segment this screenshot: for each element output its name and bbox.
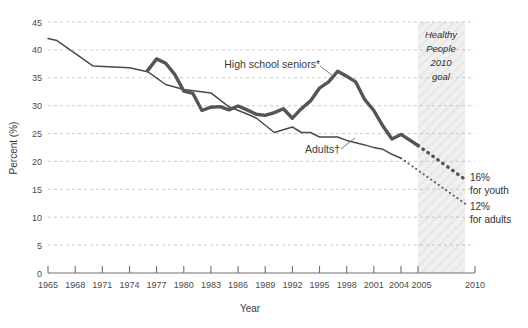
goal-line-4: goal <box>432 71 451 82</box>
target-youth-pct: 16% <box>470 172 490 183</box>
x-tick-1980: 1980 <box>174 280 194 290</box>
gridlines <box>48 22 475 245</box>
x-tick-2010: 2010 <box>465 280 485 290</box>
goal-line-3: 2010 <box>429 57 452 68</box>
y-tick-labels: 45 40 35 30 25 20 15 10 5 0 <box>32 18 42 279</box>
annotation-adults: Adults† <box>305 143 340 155</box>
target-adults-text: for adults <box>470 214 511 225</box>
goal-line-2: People <box>426 43 456 54</box>
x-tick-1992: 1992 <box>282 280 302 290</box>
y-axis-title: Percent (%) <box>8 122 19 175</box>
x-tick-1965: 1965 <box>38 280 58 290</box>
y-tick-40: 40 <box>32 45 42 55</box>
leader-line-high-school-seniors <box>320 66 333 76</box>
x-tick-1974: 1974 <box>119 280 139 290</box>
x-tick-1971: 1971 <box>92 280 112 290</box>
target-youth-label: 16% for youth <box>470 172 509 196</box>
x-tick-2004: 2004 <box>389 280 409 290</box>
x-axis-title: Year <box>240 303 261 314</box>
x-tick-1995: 1995 <box>309 280 329 290</box>
x-tick-2001: 2001 <box>364 280 384 290</box>
x-axis <box>48 266 475 273</box>
y-tick-45: 45 <box>32 18 42 28</box>
y-tick-15: 15 <box>32 185 42 195</box>
target-youth-text: for youth <box>470 185 509 196</box>
annotation-high-school-seniors: High school seniors* <box>224 58 320 70</box>
x-tick-1968: 1968 <box>65 280 85 290</box>
y-tick-35: 35 <box>32 73 42 83</box>
y-tick-20: 20 <box>32 157 42 167</box>
x-tick-1989: 1989 <box>255 280 275 290</box>
goal-line-1: Healthy <box>425 29 458 40</box>
y-tick-5: 5 <box>37 241 42 251</box>
series-line-adults <box>48 38 401 158</box>
y-tick-10: 10 <box>32 213 42 223</box>
chart-figure: 45 40 35 30 25 20 15 10 5 0 1965 1968 19… <box>0 0 528 328</box>
series-line-high-school-seniors <box>148 59 418 146</box>
target-adults-label: 12% for adults <box>470 201 511 225</box>
x-tick-labels: 1965 1968 1971 1974 1977 1980 1983 1986 … <box>38 280 485 290</box>
x-tick-1998: 1998 <box>337 280 357 290</box>
x-tick-1983: 1983 <box>201 280 221 290</box>
x-tick-1986: 1986 <box>228 280 248 290</box>
y-tick-25: 25 <box>32 129 42 139</box>
target-adults-pct: 12% <box>470 201 490 212</box>
smoking-prevalence-line-chart: 45 40 35 30 25 20 15 10 5 0 1965 1968 19… <box>0 0 528 328</box>
y-tick-30: 30 <box>32 101 42 111</box>
x-tick-1977: 1977 <box>147 280 167 290</box>
x-tick-2005: 2005 <box>411 280 431 290</box>
y-tick-0: 0 <box>37 269 42 279</box>
